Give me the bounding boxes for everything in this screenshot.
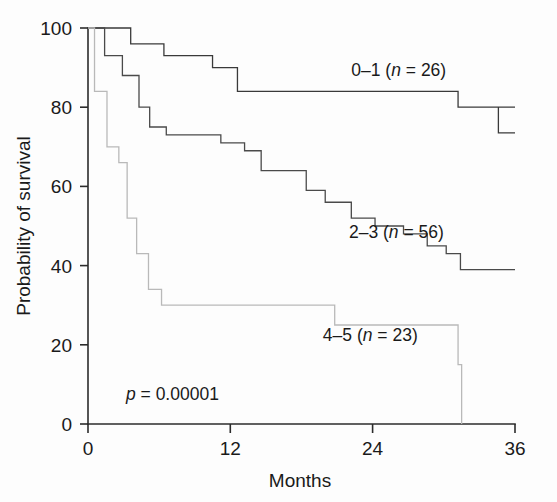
y-axis-group: 100 80 60 40 20 0 Probability of surviva… [13, 18, 88, 435]
curve-label-n-symbol-4-5: n [363, 325, 373, 345]
y-axis-tick-labels: 100 80 60 40 20 0 [40, 18, 72, 435]
y-tick-label-40: 40 [51, 256, 72, 277]
y-tick-label-60: 60 [51, 176, 72, 197]
x-axis-ticks [88, 424, 515, 433]
curve-label-group-0-1: 0–1 ( [351, 60, 391, 80]
x-tick-label-24: 24 [362, 438, 384, 459]
curve-label-n-symbol-2-3: n [389, 222, 399, 242]
y-tick-label-80: 80 [51, 97, 72, 118]
p-value-symbol: p [125, 384, 136, 404]
x-axis-group: 0 12 24 36 Months [83, 424, 526, 491]
curve-label-n-value-0-1: = 26) [401, 60, 446, 80]
y-axis-ticks [80, 28, 88, 424]
p-value-annotation: p = 0.00001 [125, 384, 219, 404]
curve-label-n-value-2-3: = 56) [399, 222, 444, 242]
y-axis-title: Probability of survival [13, 136, 34, 316]
curve-label-4-5: 4–5 (n = 23) [323, 325, 418, 345]
y-tick-label-0: 0 [61, 414, 72, 435]
curve-label-group-2-3: 2–3 ( [349, 222, 389, 242]
curve-label-n-symbol-0-1: n [391, 60, 401, 80]
y-tick-label-100: 100 [40, 18, 72, 39]
x-axis-title: Months [269, 470, 331, 491]
x-axis-tick-labels: 0 12 24 36 [83, 438, 526, 459]
curve-label-2-3: 2–3 (n = 56) [349, 222, 444, 242]
p-value-number: = 0.00001 [136, 384, 219, 404]
kaplan-meier-figure: 100 80 60 40 20 0 Probability of surviva… [0, 0, 557, 502]
survival-chart-svg: 100 80 60 40 20 0 Probability of surviva… [0, 0, 557, 502]
y-tick-label-20: 20 [51, 335, 72, 356]
curve-label-group-4-5: 4–5 ( [323, 325, 363, 345]
survival-curve-2-3 [88, 28, 515, 270]
x-tick-label-12: 12 [220, 438, 241, 459]
survival-curves-layer [88, 28, 515, 424]
x-tick-label-0: 0 [83, 438, 94, 459]
survival-curve-0-1 [88, 28, 515, 133]
x-tick-label-36: 36 [504, 438, 525, 459]
curve-label-0-1: 0–1 (n = 26) [351, 60, 446, 80]
curve-label-n-value-4-5: = 23) [372, 325, 417, 345]
